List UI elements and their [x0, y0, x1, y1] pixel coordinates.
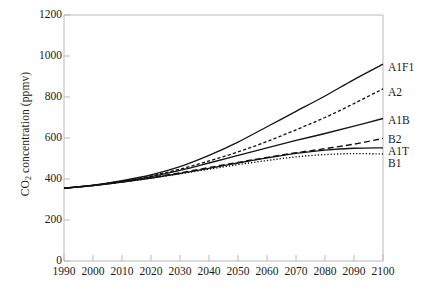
plot-area — [0, 0, 438, 301]
series-label-b1: B1 — [388, 158, 401, 170]
footer-fragment-left — [18, 292, 20, 301]
footer-fragment-right — [86, 292, 88, 301]
series-curve-a1b — [64, 119, 383, 189]
series-label-a1f1: A1F1 — [388, 62, 414, 74]
series-label-a2: A2 — [388, 87, 402, 99]
series-label-b2: B2 — [388, 134, 401, 146]
x-tick-marks — [64, 254, 383, 261]
y-tick-marks — [64, 15, 70, 261]
series-curve-b2 — [64, 138, 383, 188]
co2-concentration-chart: CO2 concentration (ppmv) 1200 1000 800 6… — [0, 0, 438, 301]
series-label-a1b: A1B — [388, 115, 410, 127]
series-curves — [64, 64, 383, 188]
page-bottom-cutoff-strip — [0, 292, 438, 301]
series-label-a1t: A1T — [388, 146, 409, 158]
series-curve-a1f1 — [64, 64, 383, 188]
series-curve-a2 — [64, 89, 383, 188]
